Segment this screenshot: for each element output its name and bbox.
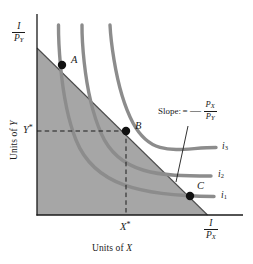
- x-intercept-label: I PX: [204, 219, 218, 241]
- indifference-curve-figure: I PY Units of Y Y* X* I PX Units of X A …: [0, 0, 253, 264]
- slope-annotation-equals: =: [183, 107, 188, 116]
- x-axis-title-units: Units of: [92, 243, 124, 253]
- x-axis-title: Units of X: [92, 244, 132, 254]
- slope-annotation-minus: —: [189, 105, 202, 117]
- point-b-label: B: [135, 121, 141, 132]
- slope-numerator: PX: [204, 100, 217, 110]
- x-intercept-denominator: PX: [204, 231, 218, 241]
- y-optimum-star: *: [29, 123, 33, 132]
- y-intercept-fraction: I PY: [12, 22, 25, 44]
- y-axis-title-var: Y: [9, 120, 19, 125]
- slope-leader-line: [176, 126, 188, 182]
- y-intercept-numerator: I: [12, 22, 25, 32]
- y-axis-title-units: Units of: [9, 128, 19, 160]
- curve-label-i2: i2: [218, 170, 224, 180]
- y-optimum-label: Y*: [23, 124, 33, 135]
- slope-annotation-text: Slope:: [158, 107, 181, 116]
- slope-annotation-fraction: PX PY: [204, 100, 217, 122]
- point-a-marker: [58, 61, 66, 69]
- slope-denominator: PY: [204, 112, 217, 122]
- point-c-label: C: [197, 181, 204, 192]
- x-optimum-label: X*: [120, 221, 130, 232]
- y-intercept-denominator: PY: [12, 34, 25, 44]
- x-optimum-star: *: [126, 220, 130, 229]
- slope-annotation: Slope: = — PX PY: [158, 100, 217, 122]
- curve-label-i1: i1: [221, 191, 227, 201]
- point-c-marker: [186, 192, 194, 200]
- curve-label-i3: i3: [222, 142, 228, 152]
- x-axis-title-var: X: [126, 243, 132, 253]
- point-b-marker: [122, 127, 130, 135]
- y-axis-title: Units of Y: [10, 120, 20, 160]
- point-a-label: A: [71, 55, 77, 66]
- y-intercept-label: I PY: [12, 22, 25, 44]
- x-intercept-numerator: I: [204, 219, 218, 229]
- x-intercept-fraction: I PX: [204, 219, 218, 241]
